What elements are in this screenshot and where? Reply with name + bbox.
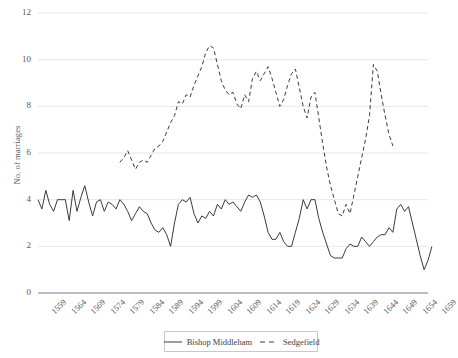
y-tick-label: 6 bbox=[9, 147, 31, 157]
series-line-sedgefield bbox=[120, 46, 393, 216]
legend-solid-line-icon bbox=[163, 338, 183, 346]
y-tick-label: 4 bbox=[9, 194, 31, 204]
y-tick-label: 10 bbox=[9, 54, 31, 64]
legend-label-sedgefield: Sedgefield bbox=[283, 337, 319, 347]
y-tick-label: 12 bbox=[9, 7, 31, 17]
legend-label-bishop-middleham: Bishop Middleham bbox=[187, 337, 252, 347]
legend-entry-sedgefield: Sedgefield bbox=[259, 337, 319, 347]
y-tick-label: 0 bbox=[9, 287, 31, 297]
legend-dashed-line-icon bbox=[259, 338, 279, 346]
chart-legend: Bishop Middleham Sedgefield bbox=[164, 331, 318, 352]
data-series-group bbox=[38, 46, 432, 270]
y-tick-label: 8 bbox=[9, 100, 31, 110]
y-tick-label: 2 bbox=[9, 240, 31, 250]
gridlines-group bbox=[38, 13, 428, 293]
legend-entry-bishop-middleham: Bishop Middleham bbox=[163, 337, 252, 347]
series-line-bishop-middleham bbox=[38, 186, 432, 270]
